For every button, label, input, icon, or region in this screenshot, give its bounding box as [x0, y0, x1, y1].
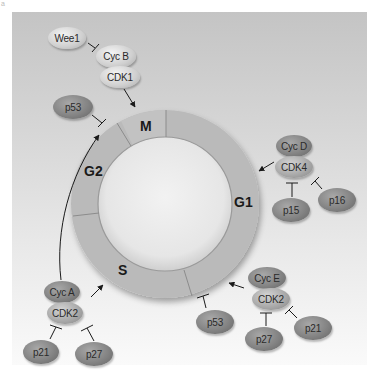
protein-cdk1: CDK1 [100, 66, 140, 88]
protein-p53-g2: p53 [53, 95, 93, 119]
protein-p16: p16 [318, 188, 356, 212]
protein-cyclin-a: Cyc A [44, 281, 80, 303]
arrow-cdk1-to-m [124, 89, 135, 107]
phase-label-m: M [140, 118, 152, 134]
phase-label-s: S [118, 262, 127, 278]
protein-cyclin-d: Cyc D [276, 135, 312, 157]
arrow-cdk2-to-g1s [229, 283, 244, 288]
arrow-cdk4-to-g1 [259, 162, 274, 171]
protein-wee1: Wee1 [48, 27, 86, 49]
protein-cdk2-g1s: CDK2 [252, 288, 290, 310]
protein-p21-g1s: p21 [294, 316, 332, 340]
cell-cycle-ring [71, 110, 259, 298]
protein-cdk2-s: CDK2 [47, 302, 83, 324]
protein-p27-s: p27 [75, 342, 113, 366]
protein-p53-g1s: p53 [196, 310, 234, 334]
protein-cdk4: CDK4 [275, 156, 313, 178]
protein-p15: p15 [272, 198, 310, 222]
phase-label-g2: G2 [84, 163, 103, 179]
protein-cyclin-e: Cyc E [248, 267, 286, 289]
protein-p27-g1s: p27 [245, 327, 283, 351]
protein-p21-s: p21 [23, 340, 59, 364]
phase-label-g1: G1 [234, 194, 253, 210]
arrow-cdk2-to-s [91, 285, 103, 297]
protein-cyclin-b: Cyc B [96, 45, 136, 68]
